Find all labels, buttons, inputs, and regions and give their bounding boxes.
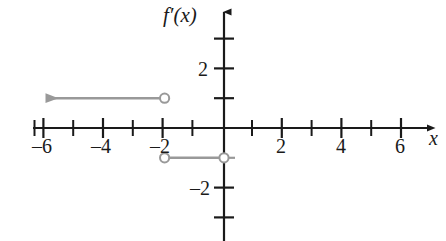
x-tick-label-6: 6 [395, 136, 405, 156]
y-axis-title: f′(x) [163, 5, 197, 26]
x-tick-label--4: –4 [91, 136, 111, 156]
x-tick-label--6: –6 [32, 136, 52, 156]
curve-branch-middle-segment [160, 153, 235, 162]
x-tick-label--2: –2 [150, 136, 170, 156]
open-circle-endpoint-minus2-1 [160, 94, 169, 103]
y-tick-label-2: 2 [198, 59, 208, 79]
graph-canvas [0, 0, 446, 241]
x-tick-label-4: 4 [336, 136, 346, 156]
x-tick-label-2: 2 [276, 136, 286, 156]
open-circle-endpoint-0-minus1 [219, 153, 228, 162]
y-tick-label--2: –2 [190, 178, 210, 198]
x-axis-title: x [429, 128, 438, 148]
y-axis [214, 12, 234, 241]
curve-branch-left-ray [46, 94, 169, 103]
graph-figure: –6 –4 –2 2 4 6 2 –2 f′(x) x [0, 0, 446, 241]
